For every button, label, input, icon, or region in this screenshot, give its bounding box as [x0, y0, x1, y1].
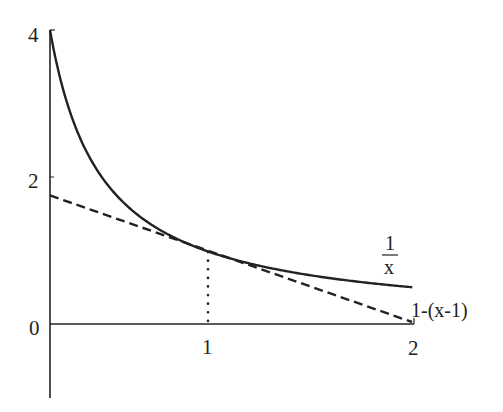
y-tick-label-0: 0	[29, 316, 40, 340]
curve-label-numerator: 1	[385, 232, 395, 254]
x-tick-label-2: 2	[408, 336, 419, 360]
reciprocal-curve	[50, 30, 412, 287]
tangent-label: 1-(x-1)	[411, 299, 468, 322]
curve-label-denominator: x	[384, 256, 394, 278]
plot-canvas: 4 2 0 1 2 1 x 1-(x-1)	[0, 0, 503, 412]
x-tick-label-1: 1	[202, 335, 213, 359]
y-tick-label-4: 4	[28, 23, 39, 47]
y-tick-label-2: 2	[28, 169, 39, 193]
